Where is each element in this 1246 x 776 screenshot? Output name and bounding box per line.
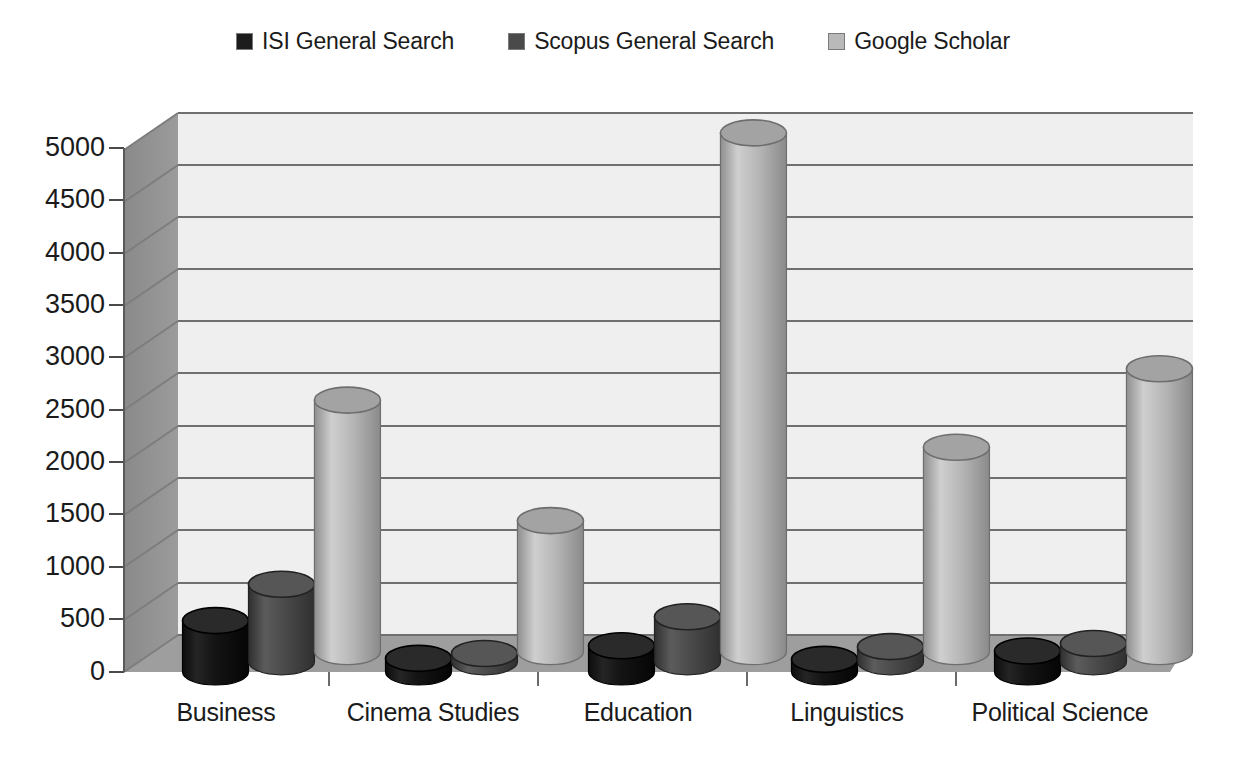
- bar-cylinder: [1126, 356, 1192, 665]
- bar-cylinder: [923, 434, 989, 664]
- x-tick-business: Business: [176, 700, 275, 725]
- bar-cylinder: [857, 634, 923, 675]
- y-tick-1000: 1000: [0, 553, 123, 580]
- bar-cylinder: [386, 645, 452, 685]
- y-tick-0: 0: [0, 658, 123, 685]
- y-tick-1500: 1500: [0, 500, 123, 527]
- y-tick-3000: 3000: [0, 343, 123, 370]
- bar-cylinder: [1060, 630, 1126, 674]
- y-tick-2500: 2500: [0, 396, 123, 423]
- y-tick-5000: 5000: [0, 134, 123, 161]
- bar-cylinder: [314, 387, 380, 665]
- x-tick-political-science: Political Science: [972, 700, 1149, 725]
- x-tick-cinema-studies: Cinema Studies: [347, 700, 519, 725]
- x-tick-linguistics: Linguistics: [790, 700, 903, 725]
- bar-cylinder: [589, 633, 655, 685]
- bar-chart-3d: [0, 0, 1246, 776]
- bar-cylinder: [451, 640, 517, 674]
- bar-cylinder: [995, 638, 1061, 685]
- y-tick-4500: 4500: [0, 186, 123, 213]
- bar-cylinder: [654, 604, 720, 675]
- bar-cylinder: [517, 508, 583, 665]
- bar-cylinder: [248, 571, 314, 675]
- y-tick-500: 500: [0, 605, 123, 632]
- y-tick-4000: 4000: [0, 239, 123, 266]
- bar-cylinder: [183, 608, 249, 685]
- bar-cylinder: [720, 120, 786, 665]
- x-tick-education: Education: [584, 700, 693, 725]
- y-tick-2000: 2000: [0, 448, 123, 475]
- y-tick-3500: 3500: [0, 291, 123, 318]
- bar-cylinder: [792, 646, 858, 685]
